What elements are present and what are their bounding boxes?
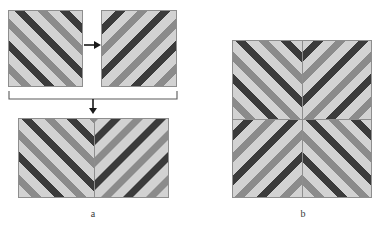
stripe-fill-backslash <box>9 11 82 86</box>
stripe-fill-forwardslash <box>302 41 371 119</box>
stripe-fill-forwardslash <box>102 11 176 86</box>
composite-a-cell-0-0 <box>19 119 94 197</box>
stripe-fill-backslash <box>233 41 302 119</box>
composite-a-vertical-seam <box>94 119 95 197</box>
composite-a-cell-0-1 <box>94 119 169 197</box>
stripe-fill-forwardslash <box>233 119 302 197</box>
stripe-fill-backslash <box>19 119 94 197</box>
composite-b-cell-1-1 <box>302 119 371 197</box>
composite-b <box>232 40 372 198</box>
source-tile-left <box>8 10 83 87</box>
composite-a <box>18 118 169 198</box>
arrow-down-icon <box>87 99 99 115</box>
composite-b-horizontal-seam <box>233 119 371 120</box>
stripe-fill-backslash <box>302 119 371 197</box>
source-tile-right <box>101 10 177 87</box>
stripe-fill-forwardslash <box>94 119 169 197</box>
composite-b-cell-0-1 <box>302 41 371 119</box>
arrow-right-icon <box>83 39 102 51</box>
caption-b: b <box>288 208 318 219</box>
composite-b-cell-0-0 <box>233 41 302 119</box>
caption-a: a <box>78 208 108 219</box>
composite-b-cell-1-0 <box>233 119 302 197</box>
figure-canvas: a b <box>0 0 382 231</box>
